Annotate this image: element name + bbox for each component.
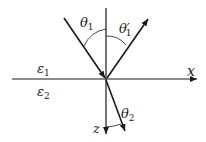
z-axis-label: z bbox=[92, 121, 100, 136]
theta2-arc bbox=[106, 124, 121, 127]
diagram-canvas: θ1 θ′1 θ2 ε1 ε2 x z bbox=[0, 0, 206, 142]
theta2-label: θ2 bbox=[121, 106, 135, 123]
theta1-label: θ1 bbox=[80, 15, 94, 32]
theta1p-label: θ′1 bbox=[119, 21, 132, 38]
theta1p-arc bbox=[106, 36, 126, 45]
x-axis-label: x bbox=[187, 63, 195, 79]
epsilon1-label: ε1 bbox=[37, 61, 50, 78]
epsilon2-label: ε2 bbox=[37, 84, 50, 101]
